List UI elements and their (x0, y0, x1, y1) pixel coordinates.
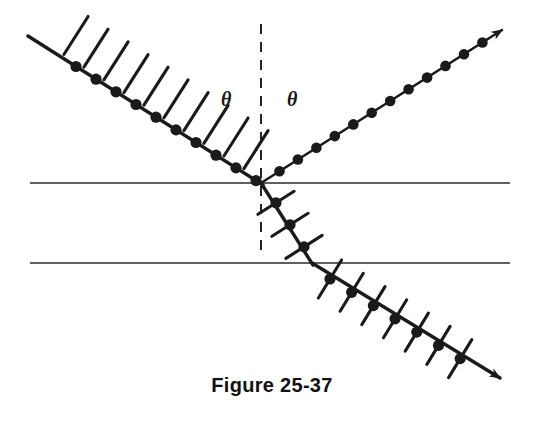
angle-of-incidence-label: θ (221, 89, 231, 109)
transmitted-ray-shaft (312, 263, 500, 378)
incident-ray-ticks (64, 17, 268, 169)
refracted-ray-dots (270, 197, 309, 252)
figure-caption: Figure 25-37 (0, 374, 544, 397)
transmitted-ray (312, 260, 500, 378)
transmitted-ray-dots (324, 273, 465, 364)
angle-of-reflection-label: θ (287, 89, 297, 109)
incident-ray (28, 17, 268, 187)
refracted-ray-in-slab (258, 183, 322, 265)
figure-25-37: θ θ Figure 25-37 (0, 0, 544, 423)
ray-diagram (0, 0, 544, 423)
